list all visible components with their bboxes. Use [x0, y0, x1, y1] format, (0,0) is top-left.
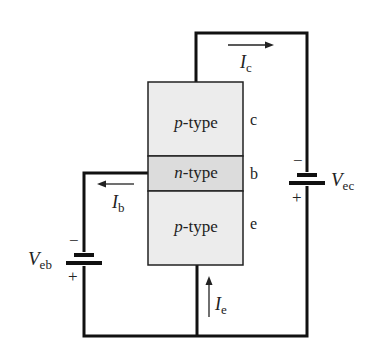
- battery-vec-plus: +: [292, 188, 302, 207]
- battery-vec-label: Vec: [331, 169, 354, 193]
- battery-veb-icon: [66, 252, 102, 266]
- base-current-arrow-icon: [97, 181, 134, 188]
- collector-current-arrow-icon: [228, 42, 274, 49]
- battery-vec-minus: −: [293, 151, 303, 170]
- battery-veb-minus: −: [69, 231, 79, 250]
- emitter-region-label: p-type: [173, 217, 217, 236]
- terminal-e-label: e: [250, 215, 257, 232]
- pnp-transistor-circuit: p-type n-type p-type c b e Ic Ib Ie − + …: [0, 0, 382, 363]
- battery-veb-label: Veb: [28, 248, 52, 272]
- battery-veb-plus: +: [68, 267, 78, 286]
- collector-current-label: Ic: [239, 52, 252, 75]
- emitter-current-arrow-icon: [206, 276, 213, 317]
- terminal-c-label: c: [250, 111, 257, 128]
- battery-vec-icon: [289, 172, 325, 186]
- collector-region-label: p-type: [173, 113, 217, 132]
- terminal-b-label: b: [250, 165, 258, 182]
- base-current-label: Ib: [111, 192, 125, 215]
- emitter-current-label: Ie: [214, 294, 227, 317]
- base-region-label: n-type: [174, 163, 217, 182]
